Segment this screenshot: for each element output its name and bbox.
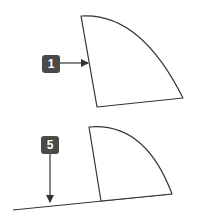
diagram-canvas: [0, 0, 201, 223]
callout-label-5: 5: [41, 136, 59, 154]
top-sector-shape: [81, 16, 183, 107]
callout-label-5-text: 5: [47, 138, 54, 152]
top-panel: [60, 16, 183, 107]
callout-label-1: 1: [42, 55, 60, 73]
bottom-panel: [13, 127, 172, 210]
bottom-sector-shape: [89, 127, 172, 201]
callout-label-1-text: 1: [48, 57, 55, 71]
